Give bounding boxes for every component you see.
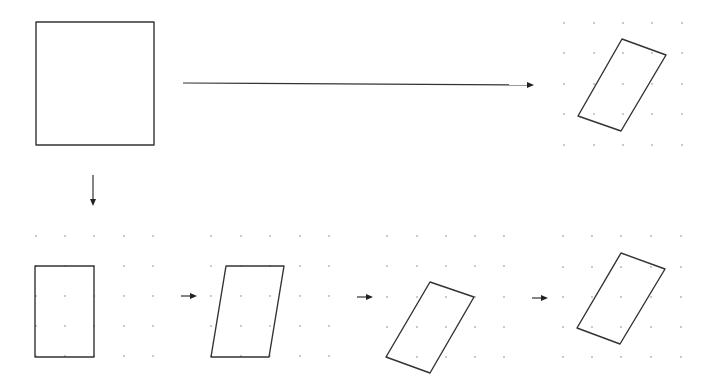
arrows <box>90 82 548 301</box>
grid-dot <box>299 235 301 237</box>
grid-dot <box>416 326 418 328</box>
grid-dot <box>593 83 595 85</box>
step-arrow-3 <box>532 295 548 301</box>
grid-dot <box>123 235 125 237</box>
grid-dot <box>593 52 595 54</box>
grid-dot <box>622 83 624 85</box>
grid-sheared <box>210 235 330 357</box>
grid-dot <box>563 144 565 146</box>
grid-dot <box>622 22 624 24</box>
grid-dot <box>474 235 476 237</box>
grid-dot <box>64 295 66 297</box>
grid-dot <box>651 144 653 146</box>
arrowhead-icon <box>541 295 548 301</box>
grid-dot <box>650 296 652 298</box>
grid-dot <box>445 265 447 267</box>
grid-dot <box>416 235 418 237</box>
grid-dot <box>591 296 593 298</box>
grid-dots <box>35 22 683 358</box>
shapes <box>35 22 666 373</box>
grid-dot <box>152 295 154 297</box>
grid-dot <box>650 235 652 237</box>
grid-dot <box>416 265 418 267</box>
grid-dot <box>416 296 418 298</box>
grid-dot <box>299 295 301 297</box>
grid-dot <box>386 326 388 328</box>
grid-dot <box>680 296 682 298</box>
grid-dot <box>152 355 154 357</box>
grid-dot <box>299 325 301 327</box>
grid-dot <box>210 265 212 267</box>
grid-rotated <box>386 235 505 358</box>
grid-dot <box>328 325 330 327</box>
grid-dot <box>328 295 330 297</box>
grid-dot <box>681 83 683 85</box>
grid-dot <box>474 356 476 358</box>
grid-dot <box>620 296 622 298</box>
grid-dot <box>35 235 37 237</box>
grid-dot <box>445 356 447 358</box>
grid-dot <box>651 22 653 24</box>
grid-dot <box>622 144 624 146</box>
grid-dot <box>240 325 242 327</box>
grid-dot <box>563 83 565 85</box>
grid-dot <box>680 266 682 268</box>
grid-dot <box>562 266 564 268</box>
grid-dot <box>562 235 564 237</box>
arrowhead-icon <box>90 199 96 206</box>
grid-dot <box>593 113 595 115</box>
grid-dot <box>93 235 95 237</box>
grid-dot <box>681 52 683 54</box>
grid-dot <box>562 296 564 298</box>
grid-dot <box>299 355 301 357</box>
grid-dot <box>445 296 447 298</box>
grid-dot <box>591 356 593 358</box>
direct-transform-arrow <box>183 82 534 88</box>
shape-scaled-rectangle <box>35 266 94 357</box>
grid-dot <box>210 235 212 237</box>
grid-dot <box>210 295 212 297</box>
grid-dot <box>474 326 476 328</box>
grid-dot <box>651 52 653 54</box>
grid-dot <box>240 295 242 297</box>
grid-dot <box>123 325 125 327</box>
grid-dot <box>503 296 505 298</box>
grid-dot <box>445 326 447 328</box>
decompose-down-arrow <box>90 175 96 206</box>
grid-dot <box>123 355 125 357</box>
step-arrow-2 <box>357 294 373 300</box>
grid-dot <box>152 235 154 237</box>
grid-dot <box>650 326 652 328</box>
grid-dot <box>386 265 388 267</box>
arrowhead-icon <box>366 294 373 300</box>
grid-dot <box>445 235 447 237</box>
grid-dot <box>503 326 505 328</box>
shape-rotated <box>386 282 474 373</box>
grid-dot <box>563 113 565 115</box>
grid-dot <box>680 326 682 328</box>
shape-sheared <box>211 266 284 357</box>
arrowhead-icon <box>527 82 534 88</box>
transformation-diagram <box>0 0 716 384</box>
grid-dot <box>386 235 388 237</box>
grid-dot <box>591 266 593 268</box>
grid-dot <box>680 356 682 358</box>
grid-dot <box>64 325 66 327</box>
grid-dot <box>562 326 564 328</box>
grid-dot <box>386 296 388 298</box>
grid-dot <box>562 356 564 358</box>
grid-dot <box>622 52 624 54</box>
arrowhead-icon <box>190 293 197 299</box>
grid-dot <box>620 235 622 237</box>
grid-dot <box>681 113 683 115</box>
grid-dot <box>593 22 595 24</box>
grid-dot <box>269 325 271 327</box>
original-square <box>36 22 154 145</box>
grid-dot <box>64 235 66 237</box>
grid-dot <box>123 295 125 297</box>
grid-dot <box>622 113 624 115</box>
grid-dot <box>680 235 682 237</box>
grid-dot <box>269 295 271 297</box>
step-arrow-1 <box>181 293 197 299</box>
grid-dot <box>591 235 593 237</box>
